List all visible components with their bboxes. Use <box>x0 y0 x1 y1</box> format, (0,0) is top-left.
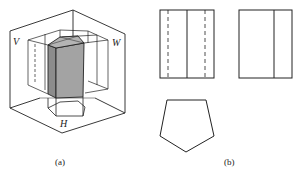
h-plane-projection <box>40 97 95 116</box>
caption-b: (b) <box>224 158 235 167</box>
figure-a-drawing <box>0 0 299 176</box>
h-plane-label: H <box>60 119 67 129</box>
front-view <box>160 10 214 78</box>
v-plane-label: V <box>13 37 19 47</box>
top-view <box>160 100 214 152</box>
caption-a: (a) <box>55 158 65 167</box>
side-view <box>239 10 292 78</box>
pentagonal-prism <box>48 36 84 98</box>
w-plane-label: W <box>112 38 120 48</box>
